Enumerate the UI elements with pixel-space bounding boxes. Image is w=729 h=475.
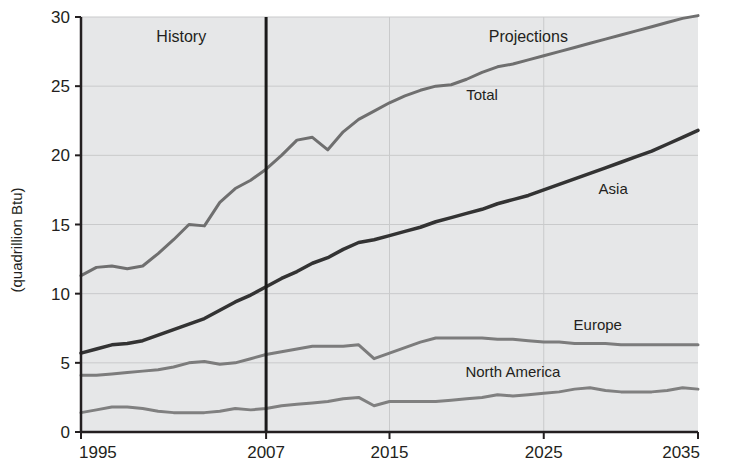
y-tick-label: 25 (51, 77, 70, 96)
series-label-europe: Europe (574, 316, 622, 333)
y-tick-label: 5 (61, 354, 70, 373)
x-tick-label: 2007 (247, 443, 285, 462)
series-label-asia: Asia (599, 180, 629, 197)
y-tick-label: 30 (51, 8, 70, 27)
series-label-total: Total (466, 86, 498, 103)
y-axis-title: (quadrillion Btu) (8, 187, 25, 292)
series-label-north-america: North America (465, 363, 561, 380)
x-tick-label: 1995 (79, 443, 117, 462)
y-tick-label: 0 (61, 423, 70, 442)
y-tick-label: 20 (51, 146, 70, 165)
annotation-projections: Projections (489, 28, 568, 45)
chart-figure: 05101520253019952007201520252035 History… (0, 0, 729, 475)
y-tick-label: 10 (51, 285, 70, 304)
y-tick-label: 15 (51, 216, 70, 235)
line-chart-canvas: 05101520253019952007201520252035 History… (0, 0, 729, 475)
y-axis-title-text: (quadrillion Btu) (8, 187, 25, 292)
x-tick-label: 2025 (525, 443, 563, 462)
x-tick-label: 2015 (371, 443, 409, 462)
annotation-history: History (156, 28, 206, 45)
x-tick-label: 2035 (662, 443, 700, 462)
